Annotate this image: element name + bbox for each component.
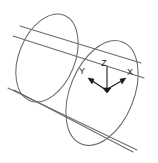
bottom-ruling-inner <box>14 90 133 152</box>
x-axis-label: X <box>127 67 133 77</box>
origin-point <box>105 88 109 92</box>
x-axis-arrowhead <box>120 78 126 84</box>
y-axis-label: Y <box>79 66 85 76</box>
technical-drawing-figure: Z X Y <box>0 0 158 163</box>
front-face-ellipse <box>52 30 153 156</box>
back-face-ellipse <box>4 5 90 111</box>
y-axis-arrowhead <box>88 78 94 84</box>
cylinder-axes-diagram: Z X Y <box>0 0 158 163</box>
z-axis-label: Z <box>101 58 107 68</box>
